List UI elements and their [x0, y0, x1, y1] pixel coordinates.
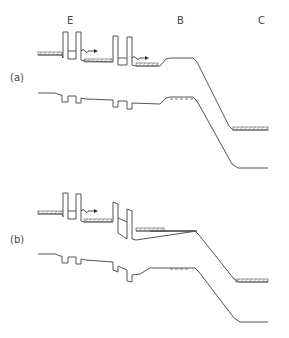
- well-fill-a-2: [136, 63, 158, 66]
- well-fill-a-1: [84, 59, 112, 62]
- conduction-band-b: [38, 193, 268, 282]
- collector-label: C: [258, 15, 265, 26]
- valence-band-b: [38, 254, 268, 322]
- arrowhead-icon: [145, 56, 149, 60]
- emitter-fermi-fill-b: [38, 211, 62, 214]
- panel-b: [38, 193, 268, 322]
- arrowhead-icon: [94, 209, 98, 213]
- collector-fermi-fill-a: [233, 127, 268, 130]
- panel-a-label: (a): [10, 72, 24, 83]
- emitter-fermi-fill-a: [38, 52, 62, 55]
- emitter-label: E: [67, 15, 73, 26]
- tunnel-arrow-b: [81, 210, 94, 213]
- conduction-band-a: [38, 32, 268, 130]
- well-fill-b-1: [84, 219, 112, 222]
- arrowhead-icon: [94, 49, 98, 53]
- collector-fermi-fill-b: [236, 279, 268, 282]
- base-fill-b: [136, 228, 164, 231]
- tunnel-arrow-a-2: [132, 57, 145, 60]
- well-level-b-2: [118, 218, 127, 222]
- tunnel-arrow-a-1: [81, 50, 94, 53]
- base-label: B: [177, 15, 184, 26]
- band-diagram: E B C (a) (b): [0, 0, 289, 338]
- panel-a: [38, 32, 268, 168]
- panel-b-label: (b): [10, 234, 24, 245]
